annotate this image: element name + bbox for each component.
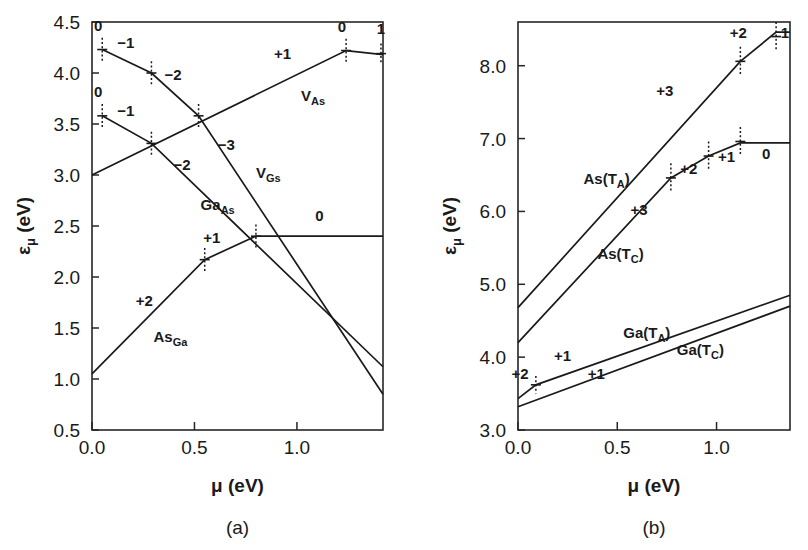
y-tick-label-b-5: 8.0	[480, 56, 506, 77]
y-axis-label-unit: (eV)	[13, 197, 34, 238]
y-axis-label-symbol: ε	[439, 246, 460, 255]
series-label-subscript: A	[617, 178, 625, 190]
panel-caption-a: (a)	[226, 517, 249, 538]
charge-label-a-0-0: +1	[274, 45, 291, 62]
series-label-subscript: C	[631, 253, 639, 265]
y-tick-label-b-4: 7.0	[480, 129, 506, 150]
series-label-a-1: VGs	[256, 164, 281, 184]
charge-label-a-2-2: −2	[174, 156, 191, 173]
charge-label-a-1-0: 0	[94, 17, 102, 34]
series-label-tail: )	[625, 170, 630, 187]
series-label-b-1: As(TC)	[597, 245, 643, 265]
curve-a-GaAs	[102, 116, 383, 367]
charge-label-a-1-3: −3	[218, 136, 235, 153]
series-label-tail: )	[719, 341, 724, 358]
x-tick-label-b-1: 0.5	[604, 437, 630, 458]
y-tick-label-a-1: 1.0	[54, 369, 80, 390]
charge-label-b-1-3: 0	[762, 145, 770, 162]
y-tick-label-a-5: 3.0	[54, 165, 80, 186]
x-tick-label-a-1: 0.5	[181, 437, 207, 458]
y-tick-label-b-0: 3.0	[480, 420, 506, 441]
series-label-main: Ga(T	[623, 324, 657, 341]
charge-label-b-1-2: +1	[718, 148, 735, 165]
series-label-main: V	[256, 164, 266, 181]
y-tick-label-a-3: 2.0	[54, 267, 80, 288]
charge-label-b-1-1: +2	[680, 160, 697, 177]
charge-label-a-0-2: 1	[377, 20, 385, 37]
series-label-main: As(T	[597, 245, 630, 262]
series-label-main: V	[301, 87, 311, 104]
x-axis-label-b: μ (eV)	[628, 475, 681, 496]
x-tick-label-b-2: 1.0	[703, 437, 729, 458]
series-label-b-2: Ga(TA)	[623, 324, 670, 344]
curve-b-AsTA	[518, 32, 790, 307]
panel-a: 0.51.01.52.02.53.03.54.04.50.00.51.0+101…	[13, 12, 386, 538]
series-label-tail: )	[639, 245, 644, 262]
charge-label-b-0-1: +2	[730, 24, 747, 41]
y-tick-label-b-1: 4.0	[480, 347, 506, 368]
charge-label-a-3-2: 0	[315, 207, 323, 224]
series-label-subscript: A	[657, 332, 665, 344]
y-tick-label-b-2: 5.0	[480, 274, 506, 295]
y-tick-label-a-8: 4.5	[54, 12, 80, 33]
y-tick-label-a-0: 0.5	[54, 420, 80, 441]
series-label-a-3: AsGa	[153, 328, 188, 348]
series-label-subscript: Gs	[266, 172, 281, 184]
charge-label-a-1-1: −1	[117, 34, 134, 51]
charge-label-b-1-0: +3	[631, 201, 648, 218]
charge-label-b-0-2: 1	[781, 24, 789, 41]
y-axis-label-symbol: ε	[13, 246, 34, 255]
y-tick-label-a-4: 2.5	[54, 216, 80, 237]
charge-label-b-2-1: +1	[554, 347, 571, 364]
charge-label-a-2-0: 0	[94, 83, 102, 100]
y-axis-label-unit: (eV)	[439, 197, 460, 238]
y-axis-label-a: εμ (eV)	[13, 197, 38, 255]
panel-b: 3.04.05.06.07.08.00.00.51.0+3+21As(TA)+3…	[439, 22, 790, 538]
charge-label-a-1-2: −2	[164, 66, 181, 83]
series-label-main: As(T	[584, 170, 617, 187]
curve-a-VAs	[92, 51, 383, 175]
series-label-a-2: GaAs	[201, 196, 235, 216]
plot-frame-b	[518, 22, 790, 430]
x-tick-label-a-2: 1.0	[284, 437, 310, 458]
charge-label-b-3-0: +1	[588, 365, 605, 382]
series-label-main: Ga(T	[677, 341, 711, 358]
charge-label-a-3-0: +2	[136, 292, 153, 309]
y-tick-label-a-7: 4.0	[54, 63, 80, 84]
y-tick-label-a-6: 3.5	[54, 114, 80, 135]
x-axis-label-a: μ (eV)	[211, 475, 264, 496]
series-label-subscript: C	[711, 349, 719, 361]
charge-label-a-3-1: +1	[203, 229, 220, 246]
y-axis-label-subscript: μ	[449, 238, 464, 246]
y-axis-label-subscript: μ	[23, 238, 38, 246]
series-label-a-0: VAs	[301, 87, 325, 107]
y-tick-label-b-3: 6.0	[480, 201, 506, 222]
y-tick-label-a-2: 1.5	[54, 318, 80, 339]
series-label-subscript: As	[221, 204, 235, 216]
series-label-b-3: Ga(TC)	[677, 341, 724, 361]
series-label-b-0: As(TA)	[584, 170, 630, 190]
series-label-subscript: As	[311, 95, 325, 107]
charge-label-a-0-1: 0	[338, 18, 346, 35]
curve-b-AsTC	[518, 143, 790, 343]
figure-svg: 0.51.01.52.02.53.03.54.04.50.00.51.0+101…	[0, 0, 808, 550]
series-label-subscript: Ga	[173, 336, 189, 348]
x-tick-label-a-0: 0.0	[79, 437, 105, 458]
y-axis-label-b: εμ (eV)	[439, 197, 464, 255]
charge-label-b-0-0: +3	[656, 82, 673, 99]
x-tick-label-b-0: 0.0	[505, 437, 531, 458]
figure-container: 0.51.01.52.02.53.03.54.04.50.00.51.0+101…	[0, 0, 808, 550]
panel-caption-b: (b)	[642, 517, 665, 538]
series-label-main: Ga	[201, 196, 222, 213]
series-label-tail: )	[665, 324, 670, 341]
charge-label-b-2-0: +2	[511, 365, 528, 382]
charge-label-a-2-1: −1	[117, 102, 134, 119]
series-label-main: As	[153, 328, 172, 345]
